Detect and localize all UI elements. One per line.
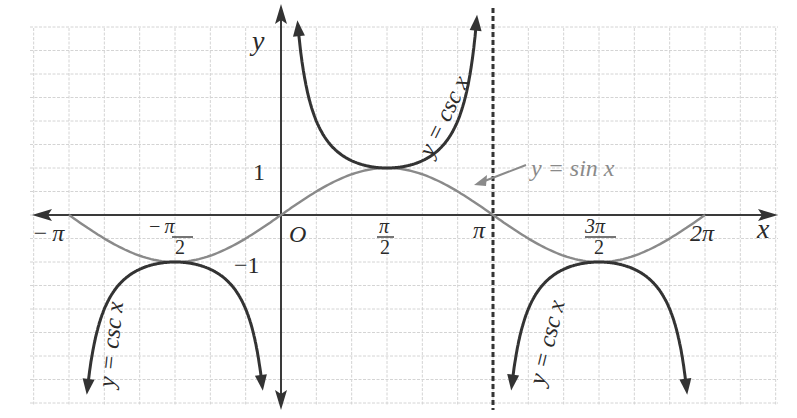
csc-sin-graph: y x O 1 −1 −π −π 2 π 2 π 3π 2 2π y = csc… [0,0,797,418]
csc-label-left: y = csc x [93,300,128,391]
x-tick-pi-half: π 2 [377,215,394,258]
y-tick-1: 1 [253,159,265,185]
csc-arrowhead-icon [470,15,482,31]
y-tick-neg-1: −1 [234,252,260,278]
svg-text:−π: −π [148,215,178,237]
svg-text:3π: 3π [584,215,606,237]
y-axis [275,4,287,410]
csc-arrowhead-icon [507,374,519,391]
sin-label: y = sin x [529,155,615,181]
x-tick-neg-pi: −π [32,220,68,246]
svg-text:2: 2 [594,236,604,258]
csc-label-right: y = csc x [523,297,570,389]
csc-arrowhead-icon [679,378,691,395]
pointer-arrow-icon [474,175,487,186]
csc-arrowhead-icon [255,374,267,391]
x-tick-pi: π [473,217,486,243]
svg-text:π: π [379,215,390,237]
x-tick-neg-pi-half: −π 2 [148,215,193,258]
csc-arrowhead-icon [293,20,305,37]
x-tick-two-pi: 2π [690,220,715,246]
origin-label: O [289,221,306,247]
x-tick-three-pi-half: 3π 2 [584,215,616,258]
svg-text:2: 2 [380,236,390,258]
x-axis [32,209,778,221]
x-axis-label: x [756,213,770,244]
csc-label-upper: y = csc x [412,71,474,162]
svg-text:2: 2 [175,236,185,258]
y-axis-label: y [249,25,265,56]
